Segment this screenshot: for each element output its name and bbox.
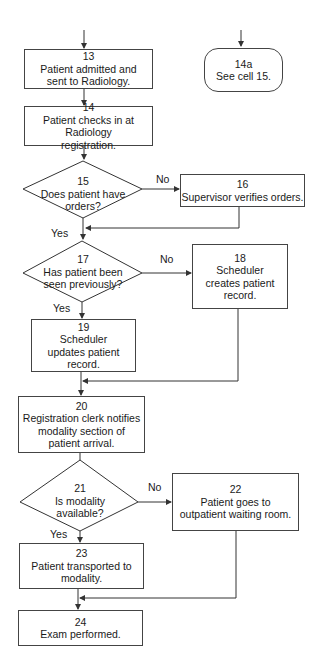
node-20-text: Registration clerk notifies modality sec… xyxy=(19,412,144,450)
node-13-id: 13 xyxy=(83,50,95,63)
node-19-text: Scheduler updates patient record. xyxy=(32,333,135,371)
edge-label-no-21: No xyxy=(148,481,161,493)
node-16-id: 16 xyxy=(237,178,249,191)
process-box-18: 18 Scheduler creates patient record. xyxy=(192,244,288,309)
decision-15: 15 Does patient have orders? xyxy=(40,175,126,213)
node-17-text: Has patient been seen previously? xyxy=(36,266,130,291)
process-box-23: 23 Patient transported to modality. xyxy=(19,543,144,589)
node-14a-id: 14a xyxy=(235,58,253,71)
node-18-id: 18 xyxy=(234,252,246,265)
process-box-14: 14 Patient checks in at Radiology regist… xyxy=(24,106,153,146)
node-20-id: 20 xyxy=(76,400,88,413)
process-box-16: 16 Supervisor verifies orders. xyxy=(180,174,305,207)
process-box-20: 20 Registration clerk notifies modality … xyxy=(18,396,145,453)
node-22-id: 22 xyxy=(230,483,242,496)
process-box-22: 22 Patient goes to outpatient waiting ro… xyxy=(172,473,299,531)
edge-label-yes-17: Yes xyxy=(53,302,70,314)
node-15-text: Does patient have orders? xyxy=(40,188,126,213)
node-23-id: 23 xyxy=(76,547,88,560)
decision-17: 17 Has patient been seen previously? xyxy=(36,253,130,291)
node-14a-text: See cell 15. xyxy=(216,70,271,83)
node-13-text: Patient admitted and sent to Radiology. xyxy=(25,63,152,88)
decision-21: 21 Is modality available? xyxy=(44,482,116,520)
edge-label-yes-21: Yes xyxy=(50,528,67,540)
node-24-id: 24 xyxy=(75,616,87,629)
node-24-text: Exam performed. xyxy=(40,628,121,641)
node-18-text: Scheduler creates patient record. xyxy=(193,264,287,302)
terminator-14a: 14a See cell 15. xyxy=(204,48,283,92)
edge-label-no-17: No xyxy=(160,253,173,265)
node-23-text: Patient transported to modality. xyxy=(20,560,143,585)
node-21-text: Is modality available? xyxy=(44,495,116,520)
edge-label-no-15: No xyxy=(156,173,169,185)
node-15-id: 15 xyxy=(40,175,126,188)
process-box-13: 13 Patient admitted and sent to Radiolog… xyxy=(24,49,153,89)
process-box-19: 19 Scheduler updates patient record. xyxy=(31,319,136,372)
node-22-text: Patient goes to outpatient waiting room. xyxy=(173,496,298,521)
node-14-text: Patient checks in at Radiology registrat… xyxy=(25,114,152,152)
node-16-text: Supervisor verifies orders. xyxy=(182,191,304,204)
process-box-24: 24 Exam performed. xyxy=(18,610,143,646)
node-17-id: 17 xyxy=(36,253,130,266)
node-14-id: 14 xyxy=(83,101,95,114)
node-21-id: 21 xyxy=(44,482,116,495)
node-19-id: 19 xyxy=(78,321,90,334)
edge-label-yes-15: Yes xyxy=(51,227,68,239)
